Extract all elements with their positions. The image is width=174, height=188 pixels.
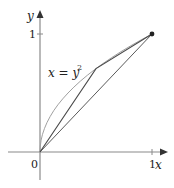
chord-origin-to-endpoint [40, 34, 152, 152]
origin-label: 0 [31, 158, 38, 171]
curve-label-text: x = y [48, 66, 79, 80]
y-axis-arrow-icon [37, 10, 44, 18]
y-tick-label: 1 [29, 28, 36, 41]
x-axis [8, 149, 168, 156]
arc-length-diagram: y 1 0 1 x x = y 2 [0, 0, 174, 188]
x-axis-label: x [155, 158, 162, 172]
endpoint-dot [150, 32, 155, 37]
y-axis-label: y [26, 9, 34, 23]
curve-label: x = y 2 [48, 63, 82, 80]
curve-label-exponent: 2 [77, 63, 82, 72]
y-axis [37, 10, 44, 180]
x-axis-arrow-icon [160, 149, 168, 156]
